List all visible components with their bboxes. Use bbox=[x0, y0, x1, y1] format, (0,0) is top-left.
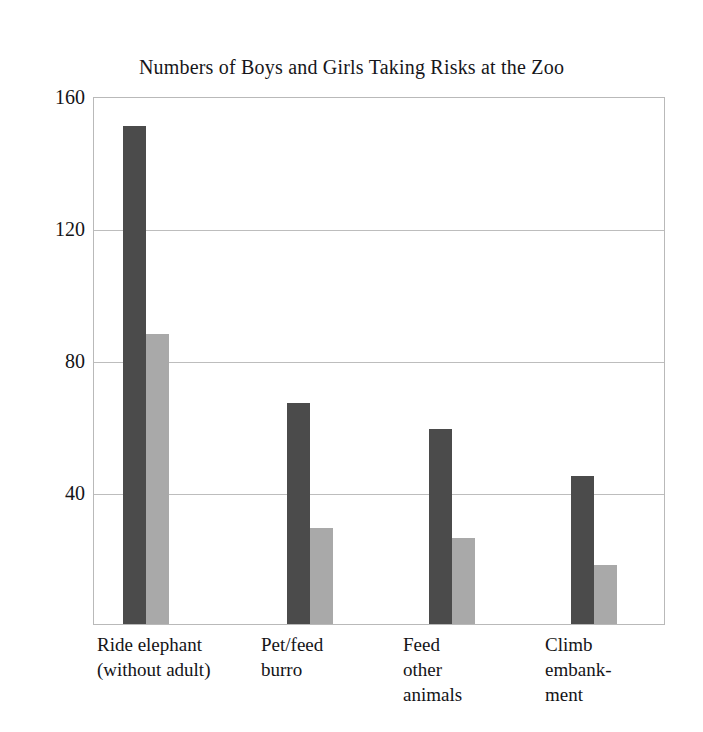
y-tick-label: 40 bbox=[11, 482, 85, 505]
y-tick-label: 120 bbox=[11, 218, 85, 241]
y-axis: 4080120160 bbox=[0, 0, 85, 732]
bar-group bbox=[287, 98, 333, 624]
bar-girls bbox=[452, 538, 475, 624]
category-label: Pet/feed burro bbox=[261, 632, 323, 682]
bar-girls bbox=[146, 334, 169, 624]
plot-area bbox=[93, 97, 665, 625]
bar-boys bbox=[429, 429, 452, 624]
category-label: Ride elephant (without adult) bbox=[97, 632, 210, 682]
bar-boys bbox=[123, 126, 146, 624]
x-axis: Ride elephant (without adult)Pet/feed bu… bbox=[93, 632, 665, 732]
bar-group bbox=[571, 98, 617, 624]
y-tick-label: 160 bbox=[11, 86, 85, 109]
category-label: Climb embank- ment bbox=[545, 632, 611, 707]
chart-title: Numbers of Boys and Girls Taking Risks a… bbox=[0, 56, 703, 79]
bar-girls bbox=[310, 528, 333, 624]
bar-boys bbox=[571, 476, 594, 625]
bar-group bbox=[123, 98, 169, 624]
bar-group bbox=[429, 98, 475, 624]
bar-boys bbox=[287, 403, 310, 624]
category-label: Feed other animals bbox=[403, 632, 462, 707]
chart-page: Numbers of Boys and Girls Taking Risks a… bbox=[0, 0, 703, 732]
y-tick-label: 80 bbox=[11, 350, 85, 373]
bar-girls bbox=[594, 565, 617, 624]
